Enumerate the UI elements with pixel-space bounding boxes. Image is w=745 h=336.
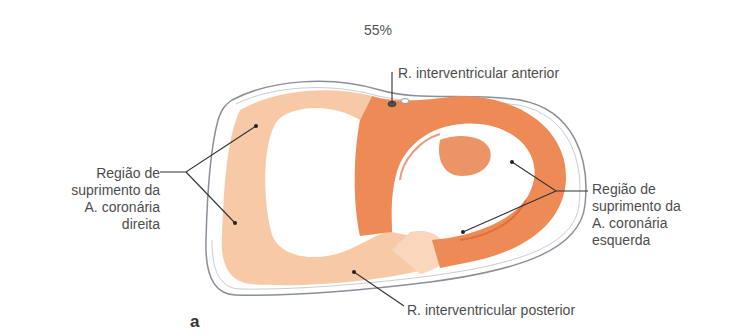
left-region-line-3: A. coronária [592,215,702,232]
right-region-line-3: A. coronária [64,199,160,216]
left-region-line-4: esquerda [592,232,702,249]
left-coronary-region-label: Região de suprimento da A. coronária esq… [592,181,702,249]
posterior-interventricular-branch-label: R. interventricular posterior [407,302,575,319]
left-region-line-1: Região de [592,181,702,198]
left-region-line-2: suprimento da [592,198,702,215]
anterior-interventricular-branch-label: R. interventricular anterior [398,65,559,82]
right-region-line-1: Região de [64,165,160,182]
right-region-line-2: suprimento da [64,182,160,199]
right-region-line-4: direita [64,216,160,233]
panel-letter: a [190,312,199,332]
right-coronary-region-label: Região de suprimento da A. coronária dir… [64,165,160,233]
